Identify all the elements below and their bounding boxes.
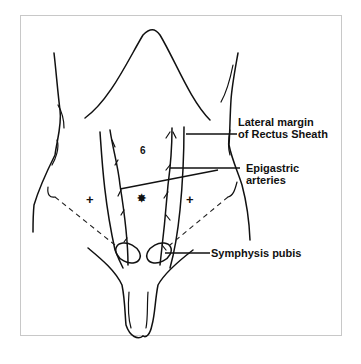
midline-port-marker: ✸	[137, 193, 146, 204]
umbilicus-marker: 6	[140, 146, 146, 156]
epigastric-arteries-label: Epigastric arteries	[246, 162, 299, 186]
symphysis-pubis-label: Symphysis pubis	[211, 247, 301, 259]
right-port-marker: +	[186, 193, 194, 206]
rectus-sheath-label-line1: Lateral margin	[238, 116, 328, 128]
lower-left-outline	[88, 248, 143, 338]
rectus-sheath-label-line2: of Rectus Sheath	[238, 128, 328, 140]
symphysis-label-text: Symphysis pubis	[211, 247, 301, 259]
left-iliac-crest	[48, 187, 55, 197]
left-flank-outline	[33, 53, 60, 232]
abdomen-illustration	[0, 0, 361, 364]
left-port-marker: +	[86, 193, 94, 206]
left-rectus-margin	[100, 132, 123, 268]
lower-right-outline	[143, 250, 193, 337]
rectus-sheath-label: Lateral margin of Rectus Sheath	[238, 116, 328, 140]
epigastric-label-line1: Epigastric	[246, 162, 299, 174]
epigastric-label-line2: arteries	[246, 174, 299, 186]
right-flank-outline	[229, 53, 250, 240]
right-iliac-crest	[228, 182, 237, 197]
left-inguinal-line	[55, 197, 115, 245]
costal-arch	[85, 30, 210, 120]
